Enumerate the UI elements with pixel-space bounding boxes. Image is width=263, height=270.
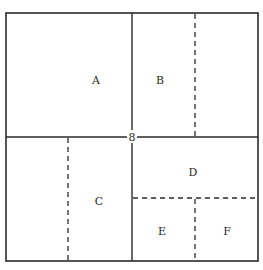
region-label-d: D [189,166,198,179]
region-label-b: B [156,74,164,87]
center-label: 8 [129,131,136,144]
region-label-e: E [158,225,166,238]
region-label-f: F [223,225,231,238]
region-label-a: A [91,74,101,87]
square-partition-diagram: 8 A B C D E F [0,0,263,270]
region-label-c: C [95,195,103,208]
